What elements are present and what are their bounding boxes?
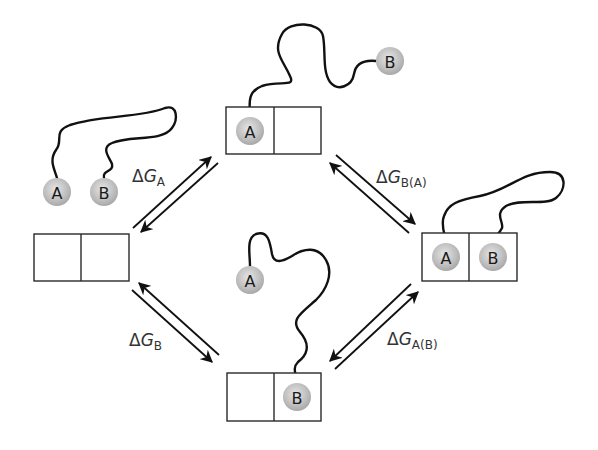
ball-label-a: A	[245, 272, 256, 291]
label-dg-b-a: ΔGB(A)	[376, 167, 427, 190]
tether-top	[250, 24, 376, 118]
tether-bottom	[249, 233, 329, 383]
binding-cycle-diagram: A B A B	[0, 0, 598, 450]
receptor-box-left	[34, 234, 129, 281]
ball-b: B	[376, 47, 404, 75]
ball-label-b: B	[385, 53, 396, 72]
equilibrium-arrows-bottom-right	[330, 284, 418, 369]
ball-label-a: A	[441, 249, 452, 268]
ball-label-b: B	[292, 389, 303, 408]
label-dg-b: ΔGB	[129, 330, 162, 353]
label-dg-a-b: ΔGA(B)	[387, 329, 438, 352]
ball-b: B	[479, 243, 507, 271]
equilibrium-arrows-top-right	[330, 155, 415, 233]
state-unbound: A B	[34, 107, 176, 281]
ball-b: B	[90, 178, 118, 206]
ball-a: A	[432, 243, 460, 271]
ball-label-a: A	[245, 123, 256, 142]
state-a-bound: A B	[226, 24, 404, 154]
arrow-forward	[132, 290, 212, 362]
ball-a: A	[236, 266, 264, 294]
tether-left	[52, 107, 175, 178]
state-b-bound: A B	[227, 233, 329, 421]
ball-label-b: B	[99, 184, 110, 203]
ball-a: A	[236, 117, 264, 145]
label-dg-a: ΔGA	[132, 166, 166, 189]
state-both-bound: A B	[422, 172, 564, 281]
ball-label-a: A	[52, 184, 63, 203]
arrow-forward	[330, 284, 411, 361]
ball-a: A	[43, 178, 71, 206]
ball-label-b: B	[488, 249, 499, 268]
ball-b: B	[283, 383, 311, 411]
equilibrium-arrows-bottom-left	[132, 283, 219, 362]
